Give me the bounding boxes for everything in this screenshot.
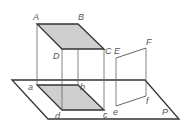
label-c: c	[103, 110, 108, 120]
diagram-canvas: A B C D E F a b c d e f P	[0, 0, 185, 126]
top-face-abcd	[37, 24, 104, 49]
segment-ef-upper	[116, 48, 146, 58]
label-D: D	[53, 51, 60, 61]
label-C: C	[105, 46, 112, 56]
label-e: e	[113, 107, 118, 117]
label-A: A	[32, 12, 39, 22]
projection-diagram: A B C D E F a b c d e f P	[0, 0, 185, 126]
segment-ef-lower	[116, 96, 146, 106]
label-b: b	[80, 82, 85, 92]
label-f: f	[146, 96, 150, 106]
label-F: F	[146, 37, 152, 47]
bottom-face-abcd	[37, 85, 104, 110]
label-a: a	[28, 82, 33, 92]
label-E: E	[114, 46, 121, 56]
label-B: B	[78, 12, 84, 22]
label-P: P	[162, 107, 168, 117]
